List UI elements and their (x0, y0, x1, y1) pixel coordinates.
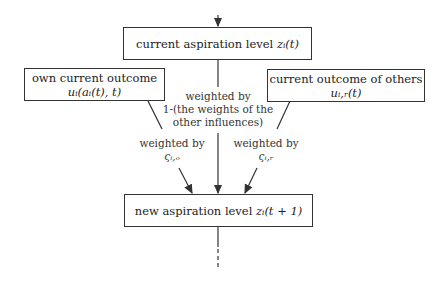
center-edge-label: weighted by 1-(the weights of the other … (158, 90, 278, 129)
right-edge-label: weighted by ςᵢ,ᵣ (230, 137, 302, 163)
label-line: other influences) (158, 116, 278, 129)
node-label: new aspiration level (135, 204, 253, 218)
label-math: ςᵢ,ₒ (136, 150, 208, 163)
node-label: current outcome of others (269, 72, 422, 86)
label-line: weighted by (158, 90, 278, 103)
node-label: current aspiration level (136, 37, 273, 51)
others-outcome-node: current outcome of others uᵢ,ᵣ(t) (267, 69, 425, 102)
label-math: ςᵢ,ᵣ (230, 150, 302, 163)
new-aspiration-node: new aspiration level zᵢ(t + 1) (124, 194, 313, 227)
own-outcome-node: own current outcome uᵢ(aᵢ(t), t) (24, 68, 165, 101)
node-math: uᵢ(aᵢ(t), t) (68, 85, 121, 99)
label-line: weighted by (136, 137, 208, 150)
right-edge-top (277, 101, 290, 129)
current-aspiration-node: current aspiration level zᵢ(t) (123, 27, 312, 60)
left-edge-bottom (179, 168, 192, 193)
label-line: 1-(the weights of the (158, 103, 278, 116)
node-math: uᵢ,ᵣ(t) (331, 86, 362, 100)
node-label: own current outcome (32, 71, 157, 85)
node-math: zᵢ(t + 1) (256, 204, 302, 218)
label-line: weighted by (230, 137, 302, 150)
right-edge-bottom (245, 168, 257, 193)
node-math: zᵢ(t) (277, 37, 299, 51)
left-edge-label: weighted by ςᵢ,ₒ (136, 137, 208, 163)
